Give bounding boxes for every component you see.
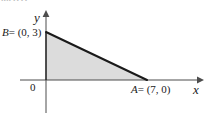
coordinate-plane-graphic (0, 0, 207, 113)
point-b-label: B= (0, 3) (2, 27, 42, 38)
y-axis-label: y (34, 11, 40, 24)
figure-canvas: MATH B= (0, 3) A= (7, 0) 0 y x (0, 0, 207, 113)
x-axis-label: x (193, 83, 199, 96)
y-axis-arrowhead (43, 10, 50, 17)
point-b-coords: = (0, 3) (9, 26, 42, 38)
point-b-name: B (2, 26, 9, 38)
point-a-coords: = (7, 0) (138, 83, 171, 95)
point-a-label: A= (7, 0) (131, 84, 171, 95)
point-a-name: A (131, 83, 138, 95)
origin-label: 0 (30, 82, 36, 93)
